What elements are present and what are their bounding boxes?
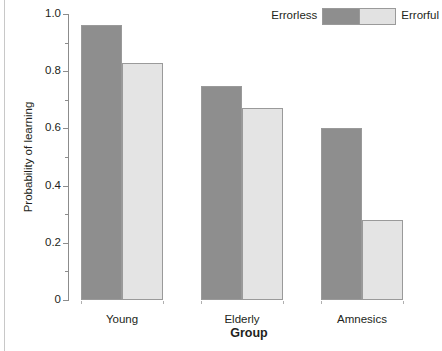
y-tick-major (63, 300, 69, 301)
y-tick-label: 0.4 (45, 180, 61, 192)
plot-area: 00.20.40.60.81.0 YoungElderlyAmnesics (69, 14, 429, 300)
bar-amnesics-errorless (321, 128, 362, 300)
y-tick-major (63, 128, 69, 129)
bar-amnesics-errorful (362, 220, 403, 300)
x-label-amnesics: Amnesics (337, 314, 387, 326)
y-tick-major (63, 71, 69, 72)
x-tick (283, 301, 284, 304)
page-gutter-line (4, 0, 5, 351)
bar-young-errorless (81, 25, 122, 300)
y-tick-minor (65, 214, 69, 215)
bar-elderly-errorless (201, 86, 242, 301)
x-label-elderly: Elderly (224, 314, 259, 326)
x-tick (403, 301, 404, 304)
y-tick-label: 0.8 (45, 65, 61, 77)
y-tick-label: 0.2 (45, 237, 61, 249)
y-axis-title: Probability of learning (20, 14, 36, 300)
y-tick-minor (65, 157, 69, 158)
x-tick (163, 301, 164, 304)
x-tick (321, 301, 322, 304)
y-tick-label: 1.0 (45, 8, 61, 20)
x-axis-title: Group (69, 326, 429, 340)
y-tick-minor (65, 43, 69, 44)
y-tick-label: 0.6 (45, 123, 61, 135)
bar-chart-figure: Errorless Errorful 00.20.40.60.81.0 Youn… (0, 0, 442, 351)
bar-young-errorful (122, 63, 163, 300)
y-tick-major (63, 186, 69, 187)
y-tick-major (63, 14, 69, 15)
x-tick (201, 301, 202, 304)
bar-elderly-errorful (242, 108, 283, 300)
x-label-young: Young (106, 314, 138, 326)
y-tick-minor (65, 271, 69, 272)
x-tick (81, 301, 82, 304)
y-tick-minor (65, 100, 69, 101)
y-tick-label: 0 (55, 294, 61, 306)
y-tick-major (63, 243, 69, 244)
